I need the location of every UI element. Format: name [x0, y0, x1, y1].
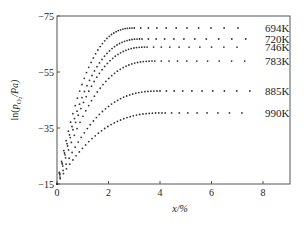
data-point	[231, 60, 233, 62]
data-point	[138, 46, 140, 48]
x-tick-label: 0	[55, 187, 60, 198]
data-point	[129, 116, 131, 118]
data-point	[106, 53, 108, 55]
data-point	[108, 78, 110, 80]
data-point	[236, 46, 238, 48]
data-point	[111, 75, 113, 77]
data-point	[121, 41, 123, 43]
data-point	[96, 66, 98, 68]
data-point	[84, 91, 86, 93]
data-point	[223, 27, 225, 29]
data-point	[90, 62, 92, 64]
series-885K	[56, 90, 251, 185]
data-point	[56, 183, 58, 185]
data-point	[68, 149, 70, 151]
data-point	[107, 126, 109, 128]
data-point	[136, 38, 138, 40]
series-720K	[56, 38, 247, 185]
data-point	[145, 60, 147, 62]
data-point	[120, 98, 122, 100]
data-point	[83, 132, 85, 134]
data-point	[76, 128, 78, 130]
data-point	[151, 60, 153, 62]
data-point	[119, 43, 121, 45]
data-point	[144, 46, 146, 48]
series-694K	[56, 27, 239, 185]
data-point	[102, 43, 104, 45]
data-point	[211, 46, 213, 48]
data-point	[160, 60, 162, 62]
data-point	[122, 28, 124, 30]
data-point	[139, 114, 141, 116]
data-point	[224, 90, 226, 92]
data-point	[249, 90, 251, 92]
data-point	[178, 46, 180, 48]
data-point	[154, 60, 156, 62]
data-point	[106, 38, 108, 40]
data-point	[153, 90, 155, 92]
data-point	[145, 113, 147, 115]
series-label: 990K	[265, 107, 290, 119]
data-point	[73, 134, 75, 136]
data-point	[104, 55, 106, 57]
data-point	[113, 122, 115, 124]
data-point	[123, 118, 125, 120]
data-point	[93, 120, 95, 122]
data-point	[71, 152, 73, 154]
data-point	[112, 57, 114, 59]
data-point	[98, 132, 100, 134]
data-point	[71, 126, 73, 128]
data-point	[114, 101, 116, 103]
data-point	[83, 77, 85, 79]
data-point	[68, 130, 70, 132]
data-point	[77, 97, 79, 99]
data-point	[99, 46, 101, 48]
data-point	[96, 117, 98, 119]
data-point	[114, 72, 116, 74]
data-point	[105, 81, 107, 83]
data-point	[99, 72, 101, 74]
series-label: 783K	[265, 55, 290, 67]
data-point	[199, 46, 201, 48]
data-point	[236, 90, 238, 92]
data-point	[183, 38, 185, 40]
data-point	[77, 141, 79, 143]
data-point	[164, 38, 166, 40]
data-point	[134, 38, 136, 40]
data-point	[89, 80, 91, 82]
data-point	[79, 90, 81, 92]
data-point	[138, 92, 140, 94]
data-point	[126, 95, 128, 97]
x-axis-title: x/%	[171, 203, 188, 214]
data-point	[169, 46, 171, 48]
series-label: 746K	[265, 41, 290, 53]
data-point	[129, 27, 131, 29]
data-point	[146, 46, 148, 48]
data-point	[97, 49, 99, 51]
data-point	[85, 144, 87, 146]
data-point	[108, 35, 110, 37]
data-point	[69, 137, 71, 139]
data-point	[102, 84, 104, 86]
data-point	[85, 96, 87, 98]
data-point	[83, 102, 85, 104]
data-point	[153, 46, 155, 48]
data-point	[126, 40, 128, 42]
data-point	[148, 60, 150, 62]
data-point	[155, 112, 157, 114]
data-point	[71, 142, 73, 144]
data-point	[241, 112, 243, 114]
data-point	[186, 27, 188, 29]
data-point	[196, 112, 198, 114]
series-990K	[56, 112, 243, 185]
data-point	[171, 112, 173, 114]
data-point	[137, 62, 139, 64]
data-point	[86, 128, 88, 130]
data-point	[140, 27, 142, 29]
data-point	[93, 81, 95, 83]
data-point	[101, 130, 103, 132]
data-point	[59, 176, 61, 178]
data-point	[125, 65, 127, 67]
data-point	[66, 143, 68, 145]
x-tick-label: 4	[158, 187, 163, 198]
